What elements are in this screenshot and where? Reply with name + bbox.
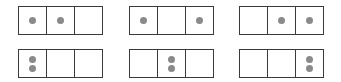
strip-cell — [130, 50, 157, 77]
strip-cell — [157, 50, 185, 77]
dot-icon — [29, 65, 36, 72]
dot-icon — [306, 65, 313, 72]
strip-cell — [295, 50, 323, 77]
strip-cell — [46, 7, 74, 34]
dot-icon — [57, 17, 64, 24]
strip-cell — [267, 50, 295, 77]
strip-cell — [130, 7, 157, 34]
dot-icon — [196, 17, 203, 24]
strip-cell — [74, 50, 102, 77]
cell-strip — [129, 6, 214, 35]
strip-cell — [74, 7, 102, 34]
dot-icon — [29, 56, 36, 63]
dot-icon — [168, 56, 175, 63]
cell-strip — [239, 49, 324, 78]
cell-strip — [18, 6, 103, 35]
strip-cell — [157, 7, 185, 34]
strip-cell — [185, 50, 213, 77]
strip-cell — [295, 7, 323, 34]
strip-cell — [19, 50, 46, 77]
dot-icon — [278, 17, 285, 24]
strip-cell — [185, 7, 213, 34]
dot-icon — [29, 17, 36, 24]
dot-icon — [306, 17, 313, 24]
dot-icon — [140, 17, 147, 24]
strip-cell — [240, 50, 267, 77]
strip-cell — [46, 50, 74, 77]
strip-cell — [19, 7, 46, 34]
strip-cell — [267, 7, 295, 34]
strip-cell — [240, 7, 267, 34]
dot-icon — [168, 65, 175, 72]
cell-strip — [18, 49, 103, 78]
cell-strip — [239, 6, 324, 35]
dot-icon — [306, 56, 313, 63]
cell-strip — [129, 49, 214, 78]
